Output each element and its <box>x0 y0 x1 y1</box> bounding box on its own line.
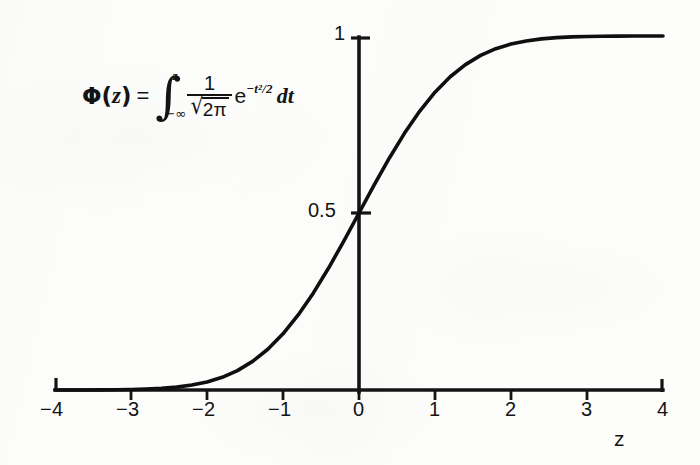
formula-integral-lower-limit: −∞ <box>164 106 186 121</box>
x-tick-label-neg1: −1 <box>268 398 291 421</box>
formula-differential: dt <box>277 83 294 109</box>
figure-canvas: −4 −3 −2 −1 0 1 2 3 4 1 0.5 z Φ(z) = z ∫… <box>0 0 700 465</box>
formula-phi-symbol: Φ <box>82 83 102 109</box>
formula-numerator: 1 <box>198 73 221 94</box>
y-axis-ticks <box>351 38 371 213</box>
formula-exponential: e −t²/2 <box>235 84 273 108</box>
x-tick-label-1: 1 <box>429 398 440 421</box>
formula-exp-superscript: −t²/2 <box>246 81 273 97</box>
x-tick-label-2: 2 <box>505 398 516 421</box>
formula-integral: z ∫ −∞ <box>155 75 181 116</box>
formula-equals-sign: = <box>137 83 150 109</box>
formula-denominator: √ 2π <box>187 96 231 121</box>
formula-sqrt: √ 2π <box>190 97 228 121</box>
formula-paren-open: ( <box>102 83 113 109</box>
normal-cdf-plot <box>0 0 700 465</box>
x-tick-label-0: 0 <box>353 398 364 421</box>
x-axis-title: z <box>614 427 625 451</box>
radical-icon: √ <box>190 94 203 121</box>
x-tick-label-3: 3 <box>581 398 592 421</box>
y-tick-label-0point5: 0.5 <box>308 199 336 222</box>
x-tick-label-neg4: −4 <box>40 398 63 421</box>
x-tick-label-neg2: −2 <box>192 398 215 421</box>
y-tick-label-1: 1 <box>334 22 345 45</box>
x-tick-label-neg3: −3 <box>116 398 139 421</box>
formula-phi-argument: z <box>112 83 121 109</box>
cdf-formula-annotation: Φ(z) = z ∫ −∞ 1 √ 2π e −t²/2 dt <box>82 72 294 120</box>
formula-exp-base: e <box>235 84 247 108</box>
formula-fraction: 1 √ 2π <box>187 73 231 121</box>
x-tick-label-4: 4 <box>657 398 668 421</box>
formula-paren-close: ) <box>121 83 132 109</box>
formula-sqrt-body: 2π <box>202 97 229 121</box>
